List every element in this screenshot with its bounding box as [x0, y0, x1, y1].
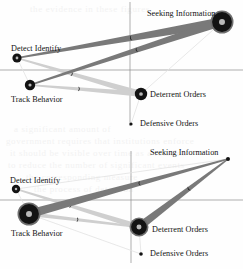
node-core: [139, 92, 143, 96]
node-seeking-information[interactable]: [226, 157, 230, 161]
node-label-track-behavior: Track Behavior: [11, 95, 63, 104]
node-detect-identify[interactable]: [12, 185, 20, 193]
edge-seeking-information-to-track-behavior: [28, 158, 228, 218]
node-label-deterrent-orders: Deterrent Orders: [152, 225, 208, 234]
node-deterrent-orders[interactable]: [130, 218, 149, 237]
node-defensive-orders[interactable]: [139, 252, 143, 256]
node-label-seeking-information: Seeking Information: [147, 9, 215, 18]
node-core: [137, 225, 142, 230]
node-defensive-orders[interactable]: [129, 122, 132, 125]
node-label-deterrent-orders: Deterrent Orders: [150, 90, 206, 99]
node-track-behavior[interactable]: [25, 80, 35, 90]
node-core: [219, 19, 225, 25]
node-label-defensive-orders: Defensive Orders: [140, 119, 198, 128]
upper-diagram-canvas: [0, 0, 243, 133]
node-core: [16, 57, 19, 60]
node-label-seeking-information: Seeking Information: [150, 148, 218, 157]
lower-influence-diagram-panel: Seeking InformationDetect IdentifyTrack …: [0, 133, 243, 269]
node-core: [15, 188, 18, 191]
node-label-detect-identify: Detect Identify: [11, 44, 61, 53]
node-detect-identify[interactable]: [12, 53, 21, 62]
influence-diagram-figure: the evidence in these figuresa significa…: [0, 0, 243, 269]
upper-influence-diagram-panel: Seeking InformationDetect IdentifyTrack …: [0, 0, 243, 133]
node-core: [28, 83, 31, 86]
node-track-behavior[interactable]: [18, 203, 41, 226]
edge-ribbon: [137, 158, 229, 230]
node-label-detect-identify: Detect Identify: [10, 176, 60, 185]
node-label-defensive-orders: Defensive Orders: [150, 249, 208, 258]
node-body: [129, 122, 132, 125]
node-label-track-behavior: Track Behavior: [11, 229, 63, 238]
node-body: [139, 252, 143, 256]
node-body: [226, 157, 230, 161]
node-deterrent-orders[interactable]: [135, 88, 147, 100]
edge-seeking-information-to-deterrent-orders: [137, 158, 229, 230]
edge-ribbon: [28, 158, 228, 218]
node-core: [26, 211, 32, 217]
